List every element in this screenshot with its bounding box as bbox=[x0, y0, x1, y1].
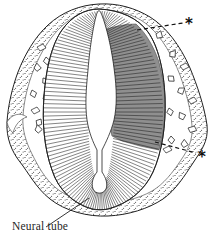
neural-tube-figure: * * Neural tube bbox=[0, 0, 216, 230]
neural-tube-diagram: * * Neural tube bbox=[0, 0, 216, 230]
asterisk-marker-bottom: * bbox=[198, 148, 206, 166]
neural-tube-label: Neural tube bbox=[12, 220, 68, 230]
asterisk-marker-top: * bbox=[185, 15, 193, 33]
